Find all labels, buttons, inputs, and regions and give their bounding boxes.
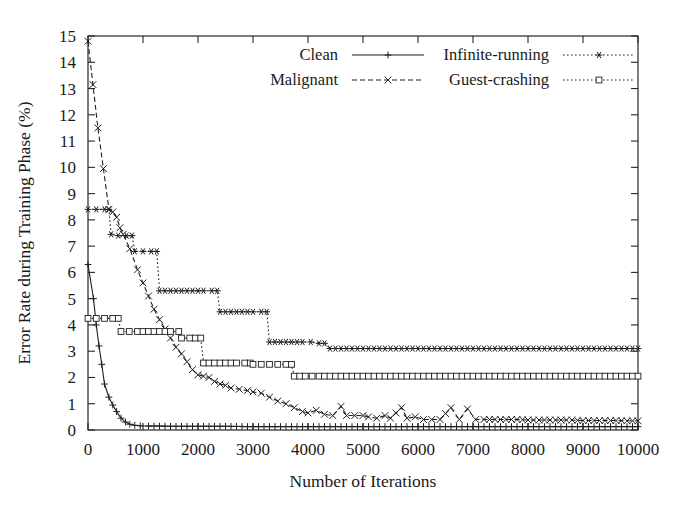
marker-square: [250, 361, 256, 367]
y-axis-title: Error Rate during Training Phase (%): [14, 101, 34, 364]
marker-square: [126, 329, 132, 335]
marker-square: [586, 373, 592, 379]
marker-square: [140, 329, 146, 335]
marker-square: [437, 373, 443, 379]
marker-square: [432, 373, 438, 379]
y-tick-label: 11: [60, 132, 76, 151]
y-tick-label: 7: [68, 237, 77, 256]
marker-square: [624, 373, 630, 379]
marker-square: [115, 315, 121, 321]
y-tick-label: 0: [68, 421, 77, 440]
marker-square: [564, 373, 570, 379]
marker-square: [382, 373, 388, 379]
marker-square: [514, 373, 520, 379]
marker-square: [275, 361, 281, 367]
marker-square: [360, 373, 366, 379]
marker-square: [198, 335, 204, 341]
marker-square: [481, 373, 487, 379]
marker-square: [399, 373, 405, 379]
y-tick-label: 13: [59, 80, 76, 99]
x-tick-label: 5000: [346, 440, 380, 459]
y-tick-label: 5: [68, 290, 77, 309]
marker-square: [234, 360, 240, 366]
marker-square: [487, 373, 493, 379]
x-tick-label: 1000: [126, 440, 160, 459]
marker-square: [267, 361, 273, 367]
marker-square: [371, 373, 377, 379]
marker-square: [542, 373, 548, 379]
marker-square: [228, 360, 234, 366]
marker-square: [558, 373, 564, 379]
marker-square: [162, 329, 168, 335]
y-tick-label: 6: [68, 263, 77, 282]
x-tick-label: 10000: [617, 440, 660, 459]
y-tick-label: 10: [59, 158, 76, 177]
chart-figure: 0123456789101112131415 01000200030004000…: [0, 0, 692, 505]
marker-square: [93, 315, 99, 321]
x-tick-label: 3000: [236, 440, 270, 459]
legend-label-infinite-running: Infinite-running: [444, 45, 549, 64]
marker-square: [388, 373, 394, 379]
marker-square: [118, 329, 124, 335]
marker-square: [410, 373, 416, 379]
marker-square: [151, 329, 157, 335]
marker-square: [569, 373, 575, 379]
y-tick-label: 12: [59, 106, 76, 125]
marker-square: [223, 360, 229, 366]
y-tick-label: 9: [68, 185, 77, 204]
marker-square: [349, 373, 355, 379]
marker-square: [454, 373, 460, 379]
marker-square: [377, 373, 383, 379]
marker-square: [520, 373, 526, 379]
y-tick-label: 1: [68, 395, 77, 414]
marker-square: [596, 77, 602, 83]
x-tick-label: 4000: [291, 440, 325, 459]
marker-square: [333, 373, 339, 379]
marker-square: [492, 373, 498, 379]
y-tick-label: 14: [59, 53, 77, 72]
marker-square: [602, 373, 608, 379]
marker-square: [476, 373, 482, 379]
marker-square: [258, 361, 264, 367]
marker-square: [415, 373, 421, 379]
marker-square: [201, 360, 207, 366]
marker-square: [404, 373, 410, 379]
marker-square: [297, 373, 303, 379]
x-axis-title: Number of Iterations: [290, 471, 437, 491]
marker-square: [509, 373, 515, 379]
marker-square: [591, 373, 597, 379]
marker-square: [344, 373, 350, 379]
legend-label-guest-crashing: Guest-crashing: [449, 70, 549, 89]
x-tick-label: 8000: [511, 440, 545, 459]
marker-square: [635, 373, 641, 379]
marker-square: [525, 373, 531, 379]
marker-square: [135, 329, 141, 335]
marker-square: [553, 373, 559, 379]
marker-square: [179, 335, 185, 341]
marker-square: [157, 329, 163, 335]
marker-square: [217, 360, 223, 366]
legend-label-malignant: Malignant: [270, 70, 338, 89]
marker-square: [531, 373, 537, 379]
marker-square: [146, 329, 152, 335]
marker-square: [547, 373, 553, 379]
marker-square: [355, 373, 361, 379]
marker-square: [470, 373, 476, 379]
marker-square: [327, 373, 333, 379]
marker-square: [283, 361, 289, 367]
marker-square: [85, 315, 91, 321]
marker-square: [448, 373, 454, 379]
marker-square: [168, 329, 174, 335]
marker-square: [608, 373, 614, 379]
marker-square: [242, 360, 248, 366]
marker-square: [366, 373, 372, 379]
marker-square: [393, 373, 399, 379]
marker-square: [322, 373, 328, 379]
x-tick-label: 6000: [401, 440, 435, 459]
marker-square: [102, 315, 108, 321]
marker-square: [536, 373, 542, 379]
marker-square: [498, 373, 504, 379]
y-tick-label: 4: [68, 316, 77, 335]
marker-square: [465, 373, 471, 379]
y-tick-label: 15: [59, 27, 76, 46]
